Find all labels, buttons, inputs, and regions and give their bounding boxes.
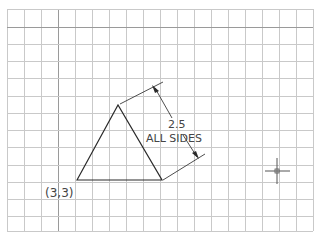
start-point-label: (3,3)	[45, 186, 73, 200]
cad-drawing-canvas[interactable]: 2.5 ALL SIDES (3,3)	[0, 0, 324, 237]
extension-line-bottom	[163, 154, 205, 180]
dimension-value: 2.5	[168, 118, 186, 131]
arrowhead-bottom-icon	[192, 151, 199, 159]
drawing-svg: 2.5 ALL SIDES (3,3)	[0, 0, 324, 237]
dimension-note: ALL SIDES	[146, 132, 202, 145]
crosshair-cursor-icon	[265, 158, 290, 184]
